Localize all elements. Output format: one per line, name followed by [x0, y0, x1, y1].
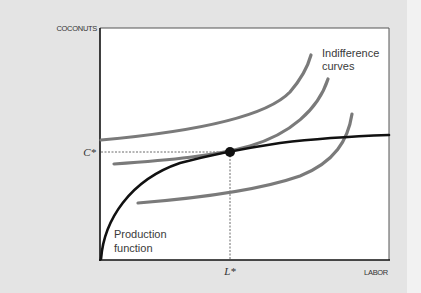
indifference-curves-label-line2: curves [322, 60, 355, 72]
production-function-label-line1: Production [114, 228, 167, 240]
robinson-crusoe-diagram: COCONUTS LABOR C* L* Indifference curves… [0, 0, 421, 293]
x-axis-label: LABOR [364, 268, 389, 277]
indifference-curves-label-line1: Indifference [322, 47, 379, 59]
production-function-label-line2: function [114, 242, 153, 254]
c-star-label: C* [83, 146, 96, 158]
equilibrium-point [225, 147, 235, 157]
l-star-label: L* [223, 265, 236, 277]
y-axis-label: COCONUTS [56, 24, 97, 33]
